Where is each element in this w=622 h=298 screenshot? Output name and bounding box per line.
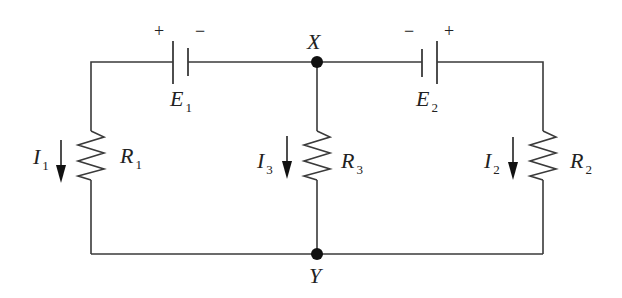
e2-plus-sign: + — [444, 22, 454, 40]
e1-plus-sign: + — [154, 22, 164, 40]
node-y-dot — [311, 248, 323, 260]
node-x-dot — [311, 56, 323, 68]
current-i2-label: I2 — [484, 150, 500, 176]
node-x-label: X — [307, 31, 320, 53]
resistor-r3-icon — [304, 131, 330, 180]
node-y-label: Y — [309, 265, 321, 287]
resistor-r1-label: R1 — [120, 145, 142, 171]
current-arrow-i1-icon — [56, 140, 66, 183]
resistor-r3-label: R3 — [341, 150, 363, 176]
current-arrow-i3-icon — [282, 136, 292, 179]
e2-minus-sign: − — [404, 22, 414, 40]
resistor-r2-label: R2 — [570, 150, 592, 176]
resistor-r2-icon — [530, 131, 556, 180]
circuit-diagram: + − − + X Y E1 E2 R1 R3 R2 I1 I3 I2 — [0, 0, 622, 298]
e1-minus-sign: − — [195, 22, 205, 40]
current-arrow-i2-icon — [508, 137, 518, 180]
source-e1-label: E1 — [170, 88, 192, 114]
current-i1-label: I1 — [33, 146, 49, 172]
resistor-r1-icon — [78, 131, 104, 180]
source-e2-label: E2 — [416, 88, 438, 114]
current-i3-label: I3 — [257, 150, 273, 176]
